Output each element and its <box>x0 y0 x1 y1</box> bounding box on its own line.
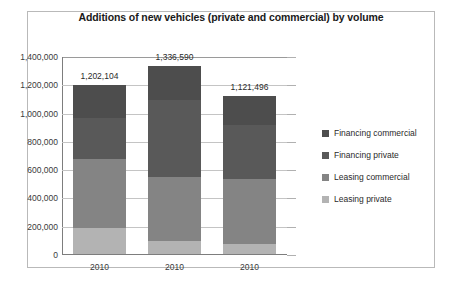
bar-segment[interactable] <box>73 118 126 159</box>
bar-segment[interactable] <box>148 177 201 241</box>
y-axis-line <box>62 57 63 255</box>
y-axis-tick-mark <box>287 114 296 115</box>
legend-item[interactable]: Leasing commercial <box>322 166 417 188</box>
legend-swatch-icon <box>322 130 329 137</box>
bar-segment[interactable] <box>73 159 126 228</box>
y-axis-tick-mark <box>287 85 296 86</box>
legend-item-label: Leasing commercial <box>334 172 410 182</box>
plot-area: 1,202,1041,336,5901,121,496 <box>62 57 287 255</box>
bar-total-label: 1,121,496 <box>205 82 295 92</box>
legend-item[interactable]: Financing private <box>322 144 417 166</box>
bar-segment[interactable] <box>148 100 201 177</box>
y-axis-tick-mark <box>287 142 296 143</box>
y-axis-tick-label: 400,000 <box>2 193 58 203</box>
bar-total-label: 1,336,590 <box>130 52 220 62</box>
legend-item[interactable]: Leasing private <box>322 188 417 210</box>
bar-segment[interactable] <box>73 228 126 255</box>
bar-segment[interactable] <box>73 85 126 118</box>
y-axis-tick-label: 1,400,000 <box>2 52 58 62</box>
legend-swatch-icon <box>322 152 329 159</box>
stacked-bar[interactable] <box>223 96 276 255</box>
bar-segment[interactable] <box>148 66 201 100</box>
bar-segment[interactable] <box>223 179 276 244</box>
legend-item-label: Financing commercial <box>334 128 417 138</box>
y-axis-tick-label: 800,000 <box>2 137 58 147</box>
y-axis-tick-mark <box>287 255 296 256</box>
bar-group[interactable]: 1,202,104 <box>73 57 126 255</box>
legend-item-label: Financing private <box>334 150 399 160</box>
legend-item[interactable]: Financing commercial <box>322 122 417 144</box>
bar-group[interactable]: 1,336,590 <box>148 57 201 255</box>
bar-group[interactable]: 1,121,496 <box>223 57 276 255</box>
y-axis-tick-label: 0 <box>2 250 58 260</box>
legend-item-label: Leasing private <box>334 194 392 204</box>
bar-segment[interactable] <box>223 96 276 124</box>
y-axis-tick-label: 600,000 <box>2 165 58 175</box>
bar-segment[interactable] <box>148 241 201 255</box>
chart-title: Additions of new vehicles (private and c… <box>0 11 462 23</box>
bar-total-label: 1,202,104 <box>55 71 145 81</box>
chart-legend: Financing commercialFinancing privateLea… <box>322 122 417 210</box>
y-axis-tick-label: 1,200,000 <box>2 80 58 90</box>
bar-segment[interactable] <box>223 125 276 180</box>
x-axis-tick-label: 2010 <box>205 262 295 272</box>
stacked-bar[interactable] <box>73 85 126 255</box>
legend-swatch-icon <box>322 196 329 203</box>
x-axis-line <box>62 254 287 255</box>
y-axis-tick-mark <box>287 170 296 171</box>
y-axis-tick-mark <box>287 227 296 228</box>
legend-swatch-icon <box>322 174 329 181</box>
y-axis-tick-mark <box>287 57 296 58</box>
y-axis-labels: 1,400,0001,200,0001,000,000800,000600,00… <box>0 57 58 255</box>
stacked-bar[interactable] <box>148 66 201 255</box>
y-axis-tick-mark <box>287 198 296 199</box>
y-axis-tick-label: 200,000 <box>2 222 58 232</box>
y-axis-tick-label: 1,000,000 <box>2 109 58 119</box>
